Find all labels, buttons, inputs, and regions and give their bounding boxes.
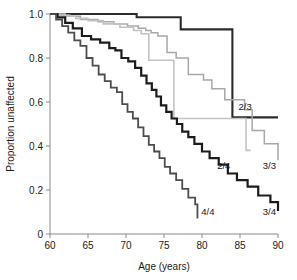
- curve-label-2-3: 2/3: [238, 101, 251, 112]
- y-tick-label: 0.4: [29, 141, 43, 152]
- y-tick-label: 0.6: [29, 97, 43, 108]
- y-tick-label: 0: [37, 229, 43, 240]
- y-tick-label: 0.8: [29, 53, 43, 64]
- x-axis-group: 60657075808590: [44, 234, 284, 251]
- curve-label-2-4: 2/4: [217, 160, 230, 171]
- y-tick-label: 1.0: [29, 9, 43, 20]
- curve-label-3-3: 3/3: [263, 160, 276, 171]
- x-tick-label: 60: [44, 240, 56, 251]
- x-tick-label: 65: [82, 240, 94, 251]
- y-axis-group: 00.20.40.60.81.0: [29, 9, 50, 240]
- curve-label-4-4: 4/4: [201, 206, 214, 217]
- x-tick-label: 90: [272, 240, 284, 251]
- curve-2-4: [50, 14, 251, 150]
- x-tick-label: 80: [196, 240, 208, 251]
- curve-3-4: [50, 14, 278, 211]
- curve-4-4: [50, 14, 197, 219]
- curve-label-3-4: 3/4: [263, 206, 276, 217]
- x-tick-label: 70: [120, 240, 132, 251]
- x-axis-title: Age (years): [138, 261, 190, 272]
- x-tick-label: 75: [158, 240, 170, 251]
- y-axis-ticks: 00.20.40.60.81.0: [29, 9, 50, 240]
- survival-curve-chart: 00.20.40.60.81.0 60657075808590 2/33/32/…: [0, 0, 297, 280]
- x-axis-ticks: 60657075808590: [44, 234, 284, 251]
- chart-canvas: 00.20.40.60.81.0 60657075808590 2/33/32/…: [0, 0, 297, 280]
- y-axis-title: Proportion unaffected: [5, 76, 16, 171]
- y-tick-label: 0.2: [29, 185, 43, 196]
- curve-group: [50, 14, 278, 219]
- x-tick-label: 85: [234, 240, 246, 251]
